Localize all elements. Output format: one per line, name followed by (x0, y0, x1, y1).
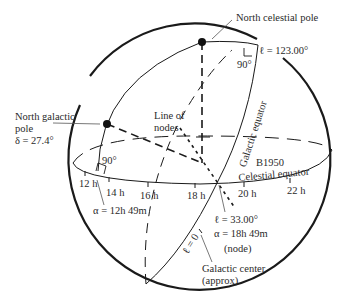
label-galactic-center-2: (approx) (202, 275, 238, 287)
label-alpha-18h49m: α = 18h 49m (214, 228, 268, 240)
label-right-angle-left: 90° (102, 155, 117, 167)
label-node: (node) (224, 243, 251, 255)
label-north-galactic-pole-1: North galactic (15, 111, 75, 123)
label-b1950: B1950 (256, 157, 284, 169)
north-celestial-pole-dot (198, 38, 206, 46)
alpha12-leader (97, 180, 104, 205)
label-alpha-12h49m: α = 12h 49m (93, 205, 147, 217)
tick-label-22h: 22 h (287, 185, 305, 197)
meridian-circle (98, 41, 258, 171)
label-north-galactic-pole-2: pole (15, 123, 33, 135)
right-angle-top (244, 48, 252, 56)
north-galactic-pole-dot (103, 120, 111, 128)
tick-label-16h: 16 h (140, 190, 158, 202)
tick-label-14h: 14 h (106, 187, 124, 199)
label-north-celestial-pole: North celestial pole (236, 12, 318, 24)
tick-label-12h: 12 h (79, 178, 97, 190)
gc-leader (201, 235, 212, 262)
ncp-leader (212, 20, 232, 39)
tick-label-18h: 18 h (187, 190, 205, 202)
ngp-leader (53, 123, 100, 124)
label-right-angle-top: 90° (237, 59, 252, 71)
label-l-33: ℓ = 33.00° (214, 214, 258, 226)
label-line-of-nodes-1: Line of (154, 110, 185, 122)
gc-tick (199, 229, 202, 233)
node-leader (219, 185, 225, 212)
sphere-outline (90, 23, 257, 76)
tick-label-20h: 20 h (238, 188, 256, 200)
label-delta: δ = 27.4° (15, 135, 54, 147)
label-line-of-nodes-2: nodes (154, 122, 179, 134)
label-l-123: ℓ = 123.00° (259, 45, 308, 57)
label-galactic-center-1: Galactic center (202, 263, 265, 275)
